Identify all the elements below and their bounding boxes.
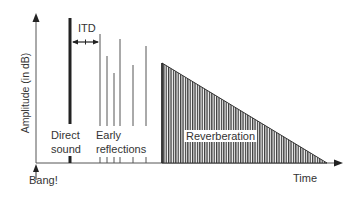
early-reflections-label-line1: Early <box>96 129 121 142</box>
reverberation-label: Reverberation <box>184 130 257 142</box>
bang-label: Bang! <box>29 174 58 187</box>
direct-sound-label-line1: Direct <box>51 129 80 142</box>
reverberation-decay-area <box>162 63 327 163</box>
acoustic-impulse-diagram <box>0 0 359 198</box>
y-axis-arrow-icon <box>33 13 40 22</box>
y-axis-label: Amplitude (in dB) <box>19 53 31 134</box>
x-axis-label: Time <box>293 172 317 185</box>
itd-double-arrow-icon <box>72 40 99 45</box>
direct-sound-label-line2: sound <box>51 143 81 156</box>
itd-label: ITD <box>78 22 96 35</box>
early-reflections-label-line2: reflections <box>96 143 146 156</box>
x-axis-arrow-icon <box>334 160 343 167</box>
y-axis <box>33 13 40 163</box>
